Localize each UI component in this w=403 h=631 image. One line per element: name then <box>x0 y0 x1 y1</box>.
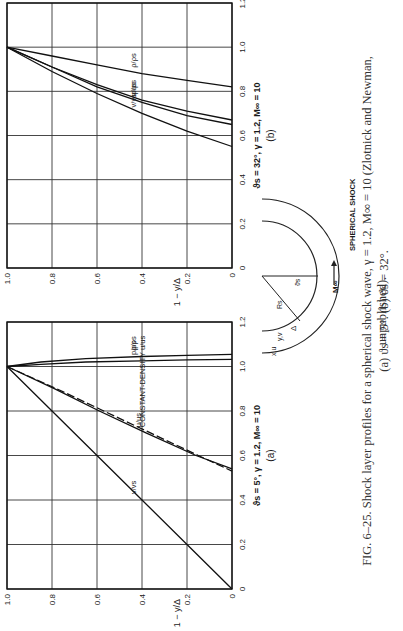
x-tick-label: 0.8 <box>238 405 247 417</box>
rs-label: Rs <box>276 300 283 309</box>
series-label: p/ps <box>129 341 138 355</box>
y-tick-label: 1.0 <box>3 272 12 284</box>
figure-page: 00.20.40.60.81.01.200.20.40.60.81.01 − y… <box>0 0 403 631</box>
y-tick-label: 0.2 <box>183 272 192 284</box>
y-tick-label: 0.2 <box>183 593 192 605</box>
x-tick-label: 1.2 <box>238 316 247 328</box>
x-tick-label: 0.4 <box>238 174 247 186</box>
delta-label: Δ <box>289 325 298 331</box>
x-tick-label: 0.4 <box>238 494 247 506</box>
series-label: CONSTANT-DENSITY u/us <box>138 336 147 428</box>
y-axis-label: 1 − y/Δ <box>172 278 182 306</box>
series-label: v/vs <box>129 480 138 494</box>
y-tick-label: 0.8 <box>48 272 57 284</box>
x-tick-label: 0.8 <box>238 85 247 97</box>
x-tick-label: 1.2 <box>238 0 247 9</box>
x-tick-label: 0.6 <box>238 129 247 141</box>
y-axis-label: 1 − y/Δ <box>172 599 182 627</box>
panel-subtitle: ϑs = 32°, γ = 1.2, M∞ = 10 <box>252 82 262 188</box>
y-tick-label: 0.6 <box>93 272 102 284</box>
x-tick-label: 1.0 <box>238 360 247 372</box>
series-line <box>7 367 232 590</box>
series-line <box>7 359 232 366</box>
series-label: v/vs <box>129 94 138 108</box>
y-tick-label: 0.6 <box>93 593 102 605</box>
spherical-shock-inset-diagram: M∞ x,u y,v Δ Rs ϑs SPHERICAL SHOCK <box>262 178 357 356</box>
y-tick-label: 1.0 <box>3 593 12 605</box>
mach-label: M∞ <box>331 280 340 293</box>
x-tick-label: 1.0 <box>238 41 247 53</box>
chart-panel-a: 00.20.40.60.81.01.200.20.40.60.81.01 − y… <box>3 316 276 627</box>
y-tick-label: 0 <box>228 593 237 598</box>
x-tick-label: 0 <box>238 586 247 591</box>
series-line <box>7 47 232 87</box>
y-tick-label: 0.4 <box>138 272 147 284</box>
series-label: ρ/ρs <box>129 53 138 68</box>
figure-svg: 00.20.40.60.81.01.200.20.40.60.81.01 − y… <box>0 0 403 631</box>
y-tick-label: 0 <box>228 272 237 277</box>
y-v-label: y,v <box>276 332 284 341</box>
x-u-label: x,u <box>270 347 277 356</box>
x-tick-label: 0.2 <box>238 218 247 230</box>
figure-caption-subline: (a) ϑs = 5°. (b) ϑs = 32°. <box>377 31 392 591</box>
y-tick-label: 0.8 <box>48 593 57 605</box>
chart-panel-b: 00.20.40.60.81.01.200.20.40.60.81.01 − y… <box>3 0 276 306</box>
panel-tag: (b) <box>265 129 276 141</box>
x-tick-label: 0.2 <box>238 538 247 550</box>
theta-label: ϑs <box>294 278 301 286</box>
panel-tag: (a) <box>265 449 276 461</box>
x-tick-label: 0 <box>238 265 247 270</box>
panel-subtitle: ϑs = 5°, γ = 1.2, M∞ = 10 <box>252 405 262 506</box>
x-tick-label: 0.6 <box>238 449 247 461</box>
spherical-shock-label: SPHERICAL SHOCK <box>348 178 357 251</box>
series-line <box>7 47 232 120</box>
arrow-head-icon <box>331 260 337 266</box>
y-tick-label: 0.4 <box>138 593 147 605</box>
